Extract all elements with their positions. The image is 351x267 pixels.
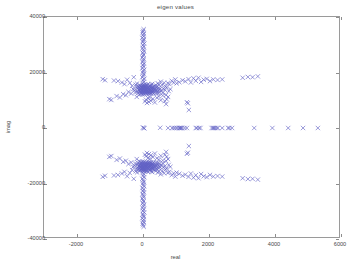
- x-tick-label: 6000: [334, 241, 346, 247]
- x-tick-mark: [275, 17, 276, 20]
- x-tick-mark: [341, 17, 342, 20]
- y-tick-label: 20000: [5, 69, 45, 75]
- x-tick-mark: [77, 234, 78, 237]
- figure-canvas: eigen values -20000200040006000-40000-20…: [0, 0, 351, 267]
- x-tick-label: 0: [140, 241, 143, 247]
- page-title: eigen values: [0, 3, 351, 10]
- x-tick-mark: [77, 17, 78, 20]
- scatter-markers: [44, 17, 339, 237]
- x-tick-label: 2000: [202, 241, 214, 247]
- y-tick-mark: [336, 17, 339, 18]
- x-tick-mark: [209, 17, 210, 20]
- y-tick-label: 40000: [5, 13, 45, 19]
- x-tick-mark: [143, 234, 144, 237]
- y-tick-mark: [336, 239, 339, 240]
- y-tick-label: -40000: [5, 235, 45, 241]
- y-tick-mark: [336, 73, 339, 74]
- plot-axes: [43, 16, 340, 238]
- y-tick-mark: [336, 128, 339, 129]
- x-tick-mark: [209, 234, 210, 237]
- x-axis-title: real: [0, 254, 351, 260]
- scatter-plot-layer: [44, 17, 339, 237]
- y-tick-mark: [336, 184, 339, 185]
- x-tick-label: -2000: [69, 241, 83, 247]
- x-tick-mark: [341, 234, 342, 237]
- y-tick-label: -20000: [5, 180, 45, 186]
- x-tick-mark: [275, 234, 276, 237]
- x-tick-mark: [143, 17, 144, 20]
- y-axis-title: imag: [5, 121, 11, 134]
- x-tick-label: 4000: [268, 241, 280, 247]
